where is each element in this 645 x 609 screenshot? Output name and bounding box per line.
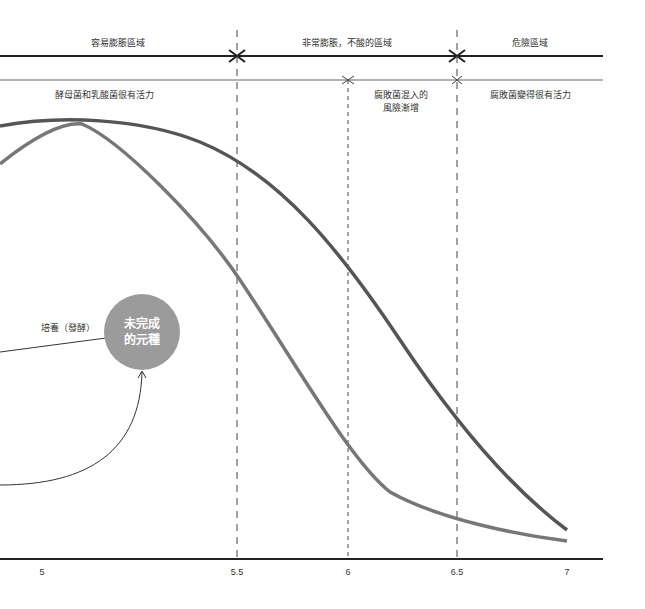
- bubble-line2: 的元種: [124, 332, 160, 348]
- zone-label-danger: 危險區域: [512, 37, 548, 50]
- rot-risk-line1: 腐敗菌混入的: [374, 89, 428, 102]
- curved-arrow: [0, 372, 142, 485]
- x-tick-5.5: 5.5: [231, 567, 244, 577]
- x-tick-6: 6: [345, 567, 350, 577]
- culture-label: 培養（發酵）: [41, 322, 95, 335]
- activity-label-rot-risk: 腐敗菌混入的 風險漸增: [374, 89, 428, 115]
- culture-pointer-line: [0, 338, 106, 352]
- bubble-line1: 未完成: [124, 316, 160, 332]
- rot-risk-line2: 風險漸增: [374, 102, 428, 115]
- unfinished-starter-bubble: 未完成 的元種: [104, 294, 180, 370]
- x-tick-7: 7: [564, 567, 569, 577]
- activity-label-rot-active: 腐敗菌變得很有活力: [490, 89, 571, 102]
- activity-label-yeast: 酵母菌和乳酸菌很有活力: [55, 89, 154, 102]
- zone-label-easy-swell: 容易膨脹區域: [91, 37, 145, 50]
- zone-label-very-swell: 非常膨脹，不酸的區域: [302, 37, 392, 50]
- x-tick-5: 5: [39, 567, 44, 577]
- x-tick-6.5: 6.5: [451, 567, 464, 577]
